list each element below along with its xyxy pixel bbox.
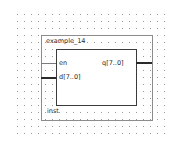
q-port-bus[interactable] [136, 62, 152, 64]
d-port-bus[interactable] [41, 77, 56, 79]
schematic-canvas: example_14 en d[7..0] q[7..0] inst [0, 0, 180, 147]
symbol-name: example_14 [46, 38, 86, 45]
q-port-label: q[7..0] [102, 60, 124, 67]
d-port-label: d[7..0] [59, 74, 81, 81]
en-port-wire[interactable] [41, 63, 56, 64]
en-port-label: en [59, 60, 67, 67]
instance-name: inst [47, 108, 59, 115]
